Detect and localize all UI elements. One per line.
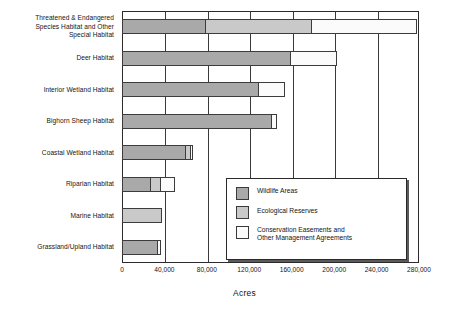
x-axis-tick-labels: 040,00080,000120,000160,000200,000240,00… (0, 266, 451, 280)
x-tick-label: 40,000 (154, 266, 174, 273)
stacked-bar-chart: Threatened & Endangered Species Habitat … (0, 0, 451, 312)
category-label: Coastal Wetland Habitat (42, 149, 114, 157)
stacked-bar (122, 240, 160, 255)
bar-segment (190, 145, 193, 160)
category-label: Deer Habitat (76, 54, 114, 62)
bar-segment (122, 208, 162, 223)
chart-legend: Wildlife AreasEcological ReservesConserv… (226, 178, 407, 260)
category-label: Threatened & Endangered Species Habitat … (35, 14, 114, 39)
stacked-bar (122, 145, 192, 160)
bar-row (122, 82, 419, 97)
category-label: Interior Wetland Habitat (44, 86, 114, 94)
x-tick-label: 280,000 (407, 266, 431, 273)
bar-segment (122, 82, 259, 97)
x-tick-label: 160,000 (280, 266, 304, 273)
legend-label: Wildlife Areas (257, 186, 298, 195)
bar-row (122, 19, 419, 34)
bar-segment (205, 19, 312, 34)
legend-item: Ecological Reserves (236, 206, 406, 220)
bar-row (122, 114, 419, 129)
stacked-bar (122, 208, 161, 223)
stacked-bar (122, 19, 416, 34)
bar-segment (157, 240, 161, 255)
x-tick-label: 240,000 (365, 266, 389, 273)
bar-segment (258, 82, 286, 97)
stacked-bar (122, 82, 284, 97)
x-tick-label: 120,000 (237, 266, 261, 273)
stacked-bar (122, 177, 174, 192)
bar-segment (122, 51, 291, 66)
category-label: Marine Habitat (70, 212, 114, 220)
legend-item: Conservation Easements and Other Managem… (236, 225, 406, 243)
stacked-bar (122, 51, 336, 66)
category-label: Riparian Habitat (66, 180, 114, 188)
bar-segment (122, 240, 158, 255)
bar-segment (122, 19, 206, 34)
legend-swatch (236, 187, 249, 200)
bar-segment (122, 177, 151, 192)
category-label: Bighorn Sheep Habitat (47, 117, 114, 125)
x-tick-label: 200,000 (322, 266, 346, 273)
category-label: Grassland/Upland Habitat (37, 243, 114, 251)
legend-swatch (236, 206, 249, 219)
bar-segment (271, 114, 277, 129)
legend-label: Conservation Easements and Other Managem… (257, 225, 352, 243)
legend-item: Wildlife Areas (236, 186, 406, 200)
legend-swatch (236, 226, 249, 239)
stacked-bar (122, 114, 276, 129)
x-axis-title: Acres (0, 288, 451, 298)
legend-label: Ecological Reserves (257, 206, 318, 215)
bar-segment (290, 51, 338, 66)
bar-row (122, 145, 419, 160)
bar-segment (311, 19, 417, 34)
bar-segment (122, 114, 272, 129)
category-axis-labels: Threatened & Endangered Species Habitat … (0, 11, 118, 263)
bar-row (122, 51, 419, 66)
bar-segment (160, 177, 175, 192)
bar-segment (122, 145, 186, 160)
x-axis-title-text: Acres (233, 288, 256, 298)
x-tick-label: 0 (120, 266, 124, 273)
x-tick-label: 80,000 (197, 266, 217, 273)
